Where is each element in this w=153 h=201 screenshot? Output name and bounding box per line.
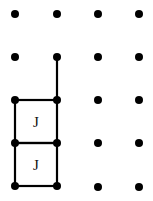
dot — [11, 96, 19, 104]
dot — [11, 139, 19, 147]
dot — [135, 183, 143, 191]
dot — [53, 182, 61, 190]
dot — [94, 183, 102, 191]
dot — [94, 10, 102, 18]
dot — [53, 10, 61, 18]
dot — [11, 10, 19, 18]
dot — [135, 10, 143, 18]
dot — [11, 53, 19, 61]
dot — [53, 139, 61, 147]
dot — [53, 53, 61, 61]
dot — [94, 53, 102, 61]
dot — [11, 182, 19, 190]
dot — [94, 139, 102, 147]
dot — [135, 53, 143, 61]
square-lower-label: J — [33, 157, 39, 173]
dot — [135, 139, 143, 147]
dot — [135, 96, 143, 104]
dot — [94, 96, 102, 104]
square-upper-label: J — [33, 114, 39, 130]
dot-grid-diagram: J J — [0, 0, 153, 201]
dot — [53, 96, 61, 104]
